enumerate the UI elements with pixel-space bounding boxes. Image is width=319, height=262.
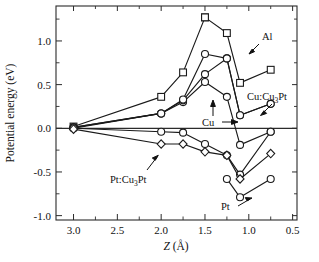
x-axis-tick-labels: 3.02.52.01.51.00.5 <box>67 224 300 236</box>
cu-arrowhead <box>232 120 239 125</box>
data-point <box>223 55 230 62</box>
data-point <box>158 128 165 135</box>
annotation-al: Al <box>262 31 273 42</box>
data-point <box>201 148 209 156</box>
annotation-pt: Pt <box>221 201 230 212</box>
cu-peak-arrowhead <box>211 100 216 107</box>
data-point <box>158 93 165 100</box>
y-axis-ticks <box>56 19 297 216</box>
data-point <box>201 78 208 85</box>
y-axis-title: Potential energy (eV) <box>4 63 17 162</box>
data-point <box>179 140 187 148</box>
data-point <box>180 129 187 136</box>
x-tick-label: 2.5 <box>110 224 124 236</box>
data-point <box>267 175 274 182</box>
ptcu3pt-arrowhead <box>152 155 158 160</box>
x-tick-label: 2.0 <box>154 224 168 236</box>
pt-arrowhead <box>245 198 252 201</box>
x-axis-ticks <box>74 6 293 220</box>
annotation-pt-cu3pt-main: Pt:Cu <box>110 174 135 185</box>
data-point <box>223 175 230 182</box>
data-point <box>180 96 187 103</box>
x-tick-label: 3.0 <box>67 224 81 236</box>
series-pt-cu3pt <box>70 125 274 178</box>
series-cu-cu3pt <box>70 55 274 131</box>
data-point <box>267 66 274 73</box>
data-point <box>237 79 244 86</box>
data-point <box>237 141 244 148</box>
x-tick-label: 0.5 <box>286 224 300 236</box>
series-pt-lower <box>223 175 274 200</box>
data-point <box>180 69 187 76</box>
series-line <box>227 179 271 197</box>
annotation-pt-cu3pt: Pt:Cu3Pt <box>110 174 147 188</box>
data-point <box>223 30 230 37</box>
y-tick-label: -0.5 <box>34 166 52 178</box>
data-point <box>223 93 230 100</box>
series-line <box>74 17 271 126</box>
data-point <box>267 128 274 135</box>
x-tick-label: 1.5 <box>198 224 212 236</box>
x-axis-title-unit: (Å) <box>173 239 189 253</box>
annotation-cu-cu3pt-main: Cu:Cu <box>247 91 275 102</box>
data-point <box>202 14 209 21</box>
series-line <box>74 128 271 174</box>
x-axis-title: Z (Å) <box>163 239 188 253</box>
data-point <box>158 110 165 117</box>
annotation-cu: Cu <box>202 117 215 128</box>
y-tick-label: 0.5 <box>37 79 51 91</box>
y-tick-label: 0.0 <box>37 122 51 134</box>
data-point <box>201 141 208 148</box>
plot-frame <box>56 6 297 220</box>
annotation-cu-cu3pt-tail: Pt <box>278 91 287 102</box>
annotation-pt-cu3pt-tail: Pt <box>138 174 147 185</box>
data-point <box>223 151 231 159</box>
data-point <box>157 140 165 148</box>
data-point <box>201 71 208 78</box>
data-series-layer <box>70 14 275 201</box>
data-point <box>237 112 244 119</box>
series-al <box>70 14 274 130</box>
y-tick-label: -1.0 <box>34 210 52 222</box>
potential-energy-plot: 3.02.52.01.51.00.5 1.00.50.0-0.5-1.0 <box>0 0 319 262</box>
figure-chart: 3.02.52.01.51.00.5 1.00.50.0-0.5-1.0 <box>0 0 319 262</box>
x-tick-label: 1.0 <box>242 224 256 236</box>
y-tick-label: 1.0 <box>37 35 51 47</box>
y-axis-tick-labels: 1.00.50.0-0.5-1.0 <box>34 35 52 222</box>
cucu3pt-arrowhead <box>261 111 267 116</box>
data-point <box>237 194 244 201</box>
data-point <box>201 51 208 58</box>
series-cu-upper <box>70 51 274 131</box>
